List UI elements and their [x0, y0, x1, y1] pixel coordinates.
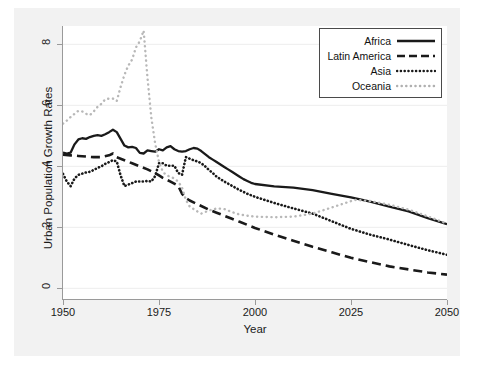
y-tick-mark	[57, 44, 62, 45]
x-tick-mark	[255, 300, 256, 305]
x-tick-label: 2025	[329, 306, 373, 318]
y-tick-mark	[57, 166, 62, 167]
legend-key-oceania	[396, 81, 436, 91]
y-tick-mark	[57, 227, 62, 228]
x-tick-mark	[447, 300, 448, 305]
y-axis-line	[62, 26, 63, 299]
x-tick-label: 1975	[137, 306, 181, 318]
legend-key-asia	[396, 66, 436, 76]
legend[interactable]: Africa Latin America Asia Oceania	[319, 28, 442, 98]
legend-label-oceania: Oceania	[352, 80, 391, 92]
x-tick-label: 1950	[41, 306, 85, 318]
legend-item[interactable]: Latin America	[324, 48, 436, 63]
legend-label-asia: Asia	[371, 65, 391, 77]
x-tick-mark	[351, 300, 352, 305]
legend-key-africa	[396, 36, 436, 46]
y-axis-title: Urban Population Growth Rates	[42, 53, 54, 283]
y-tick-mark	[57, 288, 62, 289]
legend-item[interactable]: Oceania	[324, 78, 436, 93]
legend-item[interactable]: Asia	[324, 63, 436, 78]
series-line-latin-america	[63, 154, 447, 275]
chart-figure: 02468 19501975200020252050 Urban Populat…	[0, 0, 481, 367]
legend-item[interactable]: Africa	[324, 33, 436, 48]
x-tick-mark	[63, 300, 64, 305]
y-tick-label: 8	[40, 32, 52, 52]
legend-label-africa: Africa	[364, 35, 391, 47]
x-tick-label: 2050	[425, 306, 469, 318]
legend-label-latin-america: Latin America	[327, 50, 391, 62]
y-tick-mark	[57, 105, 62, 106]
x-axis-title: Year	[63, 323, 447, 335]
x-tick-mark	[159, 300, 160, 305]
legend-key-latin-america	[396, 51, 436, 61]
x-tick-label: 2000	[233, 306, 277, 318]
